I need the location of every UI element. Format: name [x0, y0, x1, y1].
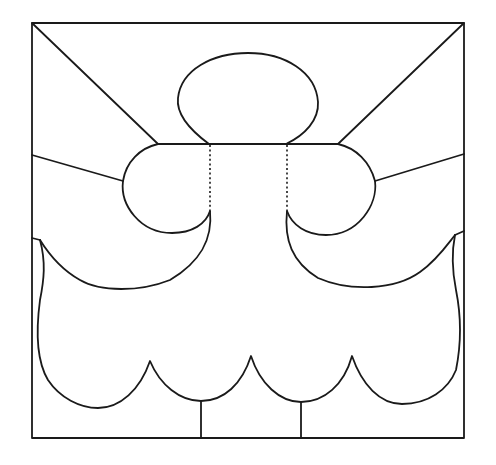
right-diagonal-ray	[338, 23, 464, 144]
left-diagonal-ray	[32, 23, 158, 144]
left-wing-stub	[32, 238, 40, 240]
diagram-canvas: Line drawing of a figure inside a square…	[0, 0, 496, 465]
right-arm-curve	[286, 211, 455, 287]
scalloped-body	[38, 235, 460, 408]
left-side-ray	[32, 155, 123, 181]
right-wing-stub	[455, 231, 464, 235]
right-side-ray	[375, 154, 464, 181]
head-oval	[178, 53, 318, 144]
left-shoulder-lobe	[123, 144, 210, 233]
figure-drawing	[0, 0, 496, 465]
right-shoulder-lobe	[287, 144, 375, 235]
left-arm-curve	[40, 211, 210, 289]
